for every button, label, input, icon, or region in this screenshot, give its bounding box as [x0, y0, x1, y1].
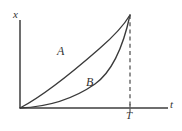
tick-label-T: T [126, 110, 132, 121]
axis-label-t: t [170, 99, 173, 110]
plot-canvas [0, 0, 182, 131]
curve-label-b: B [86, 76, 93, 88]
curve-label-a: A [57, 45, 64, 57]
axis-label-x: x [13, 9, 18, 20]
figure-container: x t T A B [0, 0, 182, 131]
curve-b [20, 15, 130, 108]
